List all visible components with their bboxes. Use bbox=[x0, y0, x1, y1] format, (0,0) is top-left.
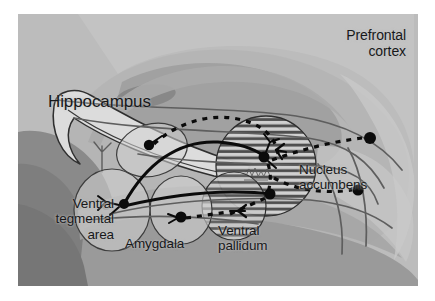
neuron-cortex-upper bbox=[364, 132, 376, 144]
label-amygdala: Amygdala bbox=[125, 236, 184, 251]
brain-sagittal-diagram: Prefrontal cortex Hippocampus Ventral te… bbox=[18, 14, 418, 286]
label-ventral-tegmental-area: Ventral tegmental area bbox=[28, 196, 114, 242]
label-prefrontal-cortex: Prefrontal cortex bbox=[346, 28, 406, 60]
label-ventral-pallidum: Ventral pallidum bbox=[218, 223, 267, 254]
figure-root: Prefrontal cortex Hippocampus Ventral te… bbox=[0, 0, 435, 301]
label-nucleus-accumbens: Nucleus accumbens bbox=[299, 162, 367, 193]
label-hippocampus: Hippocampus bbox=[48, 92, 151, 111]
